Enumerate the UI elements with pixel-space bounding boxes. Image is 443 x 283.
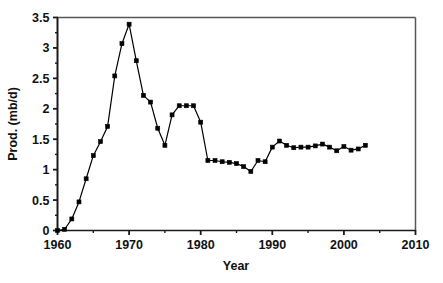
x-tick-label: 2010: [402, 238, 430, 252]
data-point-marker: [206, 159, 210, 163]
data-point-marker: [192, 104, 196, 108]
data-point-marker: [149, 100, 153, 104]
y-tick-label: 2: [43, 102, 50, 116]
data-point-marker: [270, 145, 274, 149]
data-point-marker: [91, 154, 95, 158]
data-point-marker: [285, 143, 289, 147]
x-tick-label: 1990: [258, 238, 286, 252]
data-point-marker: [235, 162, 239, 166]
data-point-marker: [199, 120, 203, 124]
data-point-marker: [292, 146, 296, 150]
y-tick-label: 1: [43, 163, 50, 177]
data-point-marker: [84, 177, 88, 181]
data-point-marker: [256, 159, 260, 163]
data-point-marker: [328, 145, 332, 149]
data-point-marker: [177, 104, 181, 108]
data-point-marker: [349, 148, 353, 152]
x-tick-label: 1980: [187, 238, 215, 252]
data-point-marker: [213, 159, 217, 163]
chart-figure: 00.511.522.533.5 19601970198019902000201…: [0, 0, 443, 283]
production-line-chart: 00.511.522.533.5 19601970198019902000201…: [0, 0, 443, 283]
data-point-marker: [141, 93, 145, 97]
data-point-marker: [106, 124, 110, 128]
x-axis-title: Year: [223, 259, 250, 273]
data-point-marker: [170, 113, 174, 117]
data-point-marker: [249, 169, 253, 173]
data-point-marker: [227, 160, 231, 164]
y-tick-label: 1.5: [32, 133, 49, 147]
y-tick-label: 0.5: [32, 194, 49, 208]
x-tick-label: 1970: [115, 238, 143, 252]
data-point-marker: [320, 142, 324, 146]
data-point-marker: [363, 143, 367, 147]
data-point-marker: [242, 165, 246, 169]
data-point-marker: [134, 59, 138, 63]
data-point-marker: [299, 145, 303, 149]
data-point-marker: [113, 74, 117, 78]
data-point-marker: [63, 227, 67, 231]
data-point-marker: [163, 143, 167, 147]
data-point-marker: [356, 147, 360, 151]
data-point-marker: [156, 126, 160, 130]
data-point-marker: [77, 200, 81, 204]
data-point-marker: [220, 160, 224, 164]
x-tick-label: 1960: [44, 238, 72, 252]
y-axis-title: Prod. (mb/d): [6, 87, 20, 161]
data-point-marker: [184, 104, 188, 108]
y-tick-label: 3.5: [32, 11, 49, 25]
data-point-marker: [120, 42, 124, 46]
data-point-marker: [277, 139, 281, 143]
data-point-marker: [313, 144, 317, 148]
data-point-marker: [70, 217, 74, 221]
x-tick-label: 2000: [330, 238, 358, 252]
data-point-marker: [335, 149, 339, 153]
data-point-marker: [342, 145, 346, 149]
data-point-marker: [98, 140, 102, 144]
data-point-marker: [56, 229, 60, 233]
data-point-marker: [306, 145, 310, 149]
y-tick-label: 2.5: [32, 72, 49, 86]
data-point-marker: [263, 160, 267, 164]
y-tick-label: 3: [43, 41, 50, 55]
data-point-marker: [127, 22, 131, 26]
y-tick-label: 0: [43, 224, 50, 238]
